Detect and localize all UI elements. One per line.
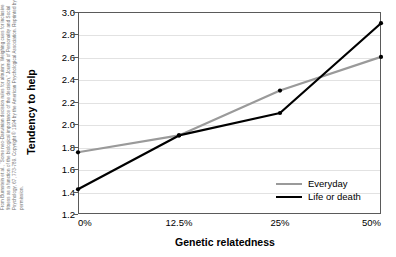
y-tick-mark xyxy=(73,102,78,103)
x-tick-label: 0% xyxy=(78,217,92,228)
y-tick-mark xyxy=(73,12,78,13)
y-tick-label: 2.6 xyxy=(35,51,75,62)
x-tick-label: 50% xyxy=(362,217,381,228)
legend-label: Life or death xyxy=(308,191,361,202)
y-tick-label: 1.4 xyxy=(35,186,75,197)
data-point xyxy=(278,111,282,115)
data-point xyxy=(379,55,383,59)
y-tick-mark xyxy=(73,124,78,125)
y-tick-label: 2.0 xyxy=(35,119,75,130)
data-point xyxy=(278,88,282,92)
y-tick-label: 3.0 xyxy=(35,7,75,18)
series-line-life-or-death xyxy=(78,23,381,189)
legend-item: Everyday xyxy=(276,177,361,190)
y-tick-mark xyxy=(73,147,78,148)
y-tick-mark xyxy=(73,57,78,58)
y-tick-label: 2.4 xyxy=(35,74,75,85)
y-tick-label: 1.6 xyxy=(35,164,75,175)
x-tick-label: 12.5% xyxy=(166,217,193,228)
legend-swatch-icon xyxy=(276,196,302,198)
y-tick-mark xyxy=(73,34,78,35)
data-point xyxy=(177,133,181,137)
x-axis-title: Genetic relatedness xyxy=(60,236,390,248)
data-point xyxy=(76,150,80,154)
data-point xyxy=(379,21,383,25)
legend-item: Life or death xyxy=(276,190,361,203)
x-tick-label: 25% xyxy=(271,217,290,228)
series-line-everyday xyxy=(78,57,381,152)
y-tick-label: 1.8 xyxy=(35,141,75,152)
y-tick-mark xyxy=(73,214,78,215)
y-tick-label: 1.2 xyxy=(35,209,75,220)
legend-label: Everyday xyxy=(308,178,348,189)
legend-swatch-icon xyxy=(276,183,302,185)
y-tick-mark xyxy=(73,79,78,80)
y-tick-label: 2.8 xyxy=(35,29,75,40)
y-tick-mark xyxy=(73,169,78,170)
y-tick-label: 2.2 xyxy=(35,96,75,107)
y-tick-mark xyxy=(73,192,78,193)
chart-legend: EverydayLife or death xyxy=(276,177,361,203)
